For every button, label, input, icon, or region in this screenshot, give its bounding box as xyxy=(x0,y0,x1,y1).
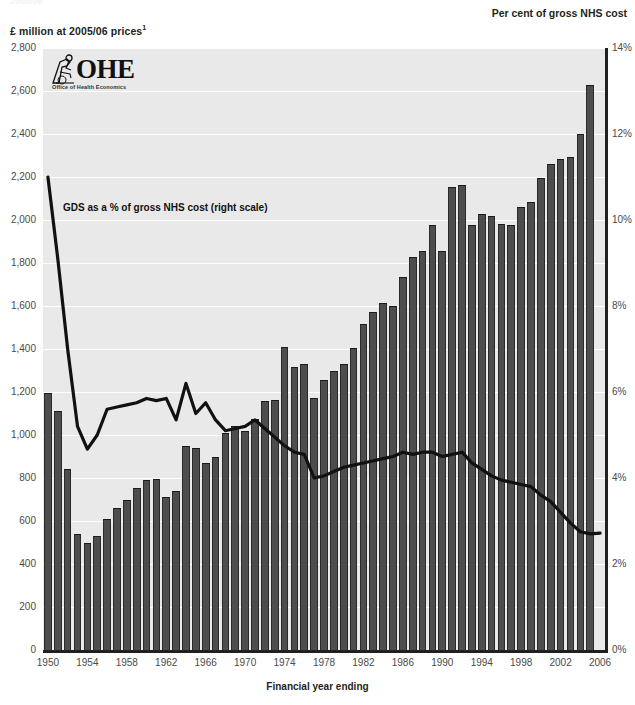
x-axis-line xyxy=(43,650,608,653)
chart-plot-area xyxy=(43,48,608,650)
y-axis-left-tick-label: 1,000 xyxy=(2,429,36,440)
y-axis-right-tick-label: 6% xyxy=(612,386,626,397)
y-axis-left-tick-label: 1,600 xyxy=(2,300,36,311)
y-axis-left-tick-label: 400 xyxy=(2,558,36,569)
x-axis-title: Financial year ending xyxy=(0,681,635,692)
right-axis-title: Per cent of gross NHS cost xyxy=(492,7,627,19)
y-axis-right-tick-label: 8% xyxy=(612,300,626,311)
y-axis-left-tick-label: 2,000 xyxy=(2,214,36,225)
x-axis-tick-label: 1974 xyxy=(265,657,305,668)
left-axis-title: £ million at 2005/06 prices1 xyxy=(10,24,146,37)
x-axis-tick-label: 1982 xyxy=(343,657,383,668)
ohe-wordmark: OHE xyxy=(76,55,135,83)
chart-plot-clip xyxy=(43,48,605,650)
x-axis-tick-label: 1962 xyxy=(146,657,186,668)
y-axis-right-tick-label: 4% xyxy=(612,472,626,483)
y-axis-left-tick-label: 800 xyxy=(2,472,36,483)
x-axis-tick-label: 1966 xyxy=(186,657,226,668)
x-axis-tick-label: 1970 xyxy=(225,657,265,668)
y-axis-right-tick-label: 0% xyxy=(612,644,626,655)
x-axis-tick-label: 1954 xyxy=(67,657,107,668)
x-axis-tick-label: 1950 xyxy=(28,657,68,668)
y-axis-right-tick-label: 2% xyxy=(612,558,626,569)
ohe-logo: OHE Office of Health Economics xyxy=(50,55,148,95)
line-series-svg xyxy=(43,48,605,650)
y-axis-left-tick-label: 2,600 xyxy=(2,85,36,96)
gds-percent-line xyxy=(48,177,600,534)
y-axis-right-tick-label: 12% xyxy=(612,128,632,139)
x-axis-tick-label: 2006 xyxy=(580,657,620,668)
y-axis-right-tick-label: 10% xyxy=(612,214,632,225)
x-axis-tick-label: 1994 xyxy=(462,657,502,668)
y-axis-left-tick-label: 600 xyxy=(2,515,36,526)
y-axis-left-tick-label: 1,200 xyxy=(2,386,36,397)
ghost-header-text: 2005/06 xyxy=(10,0,43,6)
y-axis-left-tick-label: 2,800 xyxy=(2,42,36,53)
y-axis-left-tick-label: 2,400 xyxy=(2,128,36,139)
x-axis-tick-label: 1958 xyxy=(107,657,147,668)
y-axis-left-tick-label: 1,400 xyxy=(2,343,36,354)
footnote-marker: 1 xyxy=(142,24,146,31)
y-axis-left-tick-label: 1,800 xyxy=(2,257,36,268)
x-axis-tick-label: 1998 xyxy=(501,657,541,668)
x-axis-tick-label: 1990 xyxy=(422,657,462,668)
y-axis-left-tick-label: 0 xyxy=(2,644,36,655)
y-axis-right-tick-label: 14% xyxy=(612,42,632,53)
line-series-annotation: GDS as a % of gross NHS cost (right scal… xyxy=(63,202,268,213)
y-axis-left-tick-label: 200 xyxy=(2,601,36,612)
x-axis-tick-label: 2002 xyxy=(541,657,581,668)
x-axis-tick-label: 1978 xyxy=(304,657,344,668)
ohe-subtitle: Office of Health Economics xyxy=(52,84,126,90)
left-axis-title-text: £ million at 2005/06 prices xyxy=(10,25,142,37)
y-axis-left-tick-label: 2,200 xyxy=(2,171,36,182)
x-axis-tick-label: 1986 xyxy=(383,657,423,668)
